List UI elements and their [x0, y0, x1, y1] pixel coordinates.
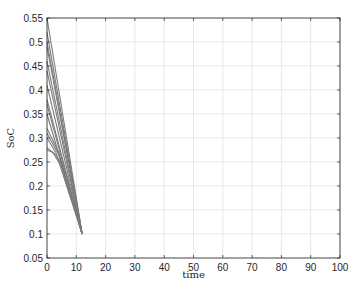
x-tick-label: 20	[100, 262, 112, 273]
y-tick-label: 0.2	[29, 181, 43, 192]
y-tick-label: 0.05	[24, 253, 44, 264]
x-tick-label: 70	[247, 262, 259, 273]
x-tick-label: 40	[159, 262, 171, 273]
y-tick-label: 0.5	[29, 37, 43, 48]
y-tick-labels: 0.050.10.150.20.250.30.350.40.450.50.55	[24, 13, 44, 264]
x-tick-label: 80	[276, 262, 288, 273]
x-tick-label: 10	[71, 262, 83, 273]
x-tick-label: 100	[332, 262, 349, 273]
grid-lines	[47, 18, 340, 258]
y-axis-label: SoC	[5, 127, 16, 148]
y-tick-label: 0.55	[24, 13, 44, 24]
y-tick-label: 0.1	[29, 229, 43, 240]
x-tick-label: 90	[305, 262, 317, 273]
soc-line-chart: 0102030405060708090100 0.050.10.150.20.2…	[0, 0, 356, 293]
series-line	[47, 150, 82, 234]
y-tick-label: 0.4	[29, 85, 43, 96]
y-tick-label: 0.45	[24, 61, 44, 72]
y-tick-label: 0.15	[24, 205, 44, 216]
x-tick-label: 30	[129, 262, 141, 273]
series-lines	[47, 18, 82, 234]
y-tick-label: 0.3	[29, 133, 43, 144]
x-tick-label: 60	[217, 262, 229, 273]
y-tick-label: 0.25	[24, 157, 44, 168]
y-tick-label: 0.35	[24, 109, 44, 120]
x-axis-label: time	[182, 269, 205, 280]
x-tick-label: 0	[44, 262, 50, 273]
